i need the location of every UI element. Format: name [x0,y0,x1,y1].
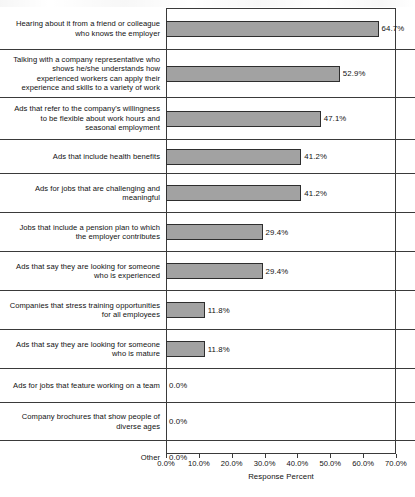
category-label-line: Companies that stress training opportuni… [0,301,160,310]
bar [166,111,321,127]
bar [166,341,205,357]
x-axis-tick-label: 50.0% [319,459,341,468]
bar-value-label: 11.8% [205,306,230,315]
scan-noise-artifact [0,0,415,7]
category-label-line: who knows the employer [0,29,160,38]
category-label: Companies that stress training opportuni… [0,301,164,320]
bar [166,224,263,240]
chart-row: Ads that say they are looking for someon… [0,252,415,291]
category-label: Company brochures that show people ofdiv… [0,412,164,431]
bar-value-label: 0.0% [166,381,187,390]
bar-value-label: 29.4% [263,267,289,276]
category-label-line: Hearing about it from a friend or collea… [0,19,160,28]
bar-value-label: 47.1% [321,114,347,123]
bar-value-label: 0.0% [166,417,187,426]
category-label: Ads that say they are looking for someon… [0,340,164,359]
x-axis-tick-label: 20.0% [221,459,243,468]
category-label: Ads for jobs that are challenging andmea… [0,184,164,203]
x-axis-tick [166,454,167,458]
bar-value-label: 41.2% [301,152,327,161]
x-axis-tick [363,454,364,458]
bar-cell: 64.7% [166,8,396,49]
category-label-line: who is mature [0,349,160,358]
x-axis-title: Response Percent [166,472,396,481]
bar-cell: 0.0% [166,403,396,440]
category-label-line: Ads that include health benefits [0,152,160,161]
bar [166,149,301,165]
bar [166,21,379,37]
category-label: Ads that include health benefits [0,152,164,161]
category-label-line: Ads that refer to the company's willingn… [0,104,160,113]
category-label: Jobs that include a pension plan to whic… [0,223,164,242]
bar-value-label: 29.4% [263,228,289,237]
bar-cell: 11.8% [166,291,396,329]
bar-cell: 41.2% [166,140,396,173]
chart-row: Ads that say they are looking for someon… [0,330,415,369]
category-label: Ads for jobs that feature working on a t… [0,381,164,390]
category-label-line: the employer contributes [0,232,160,241]
x-axis-tick [265,454,266,458]
category-label: Ads that refer to the company's willingn… [0,104,164,132]
x-axis-tick [297,454,298,458]
x-axis-tick-labels: 0.0%10.0%20.0%30.0%40.0%50.0%60.0%70.0% [0,459,415,471]
bar-value-label: 52.9% [340,69,366,78]
category-label-line: Company brochures that show people of [0,412,160,421]
x-axis-tick [232,454,233,458]
category-label: Hearing about it from a friend or collea… [0,19,164,38]
x-axis-tick-label: 70.0% [385,459,407,468]
category-label-line: Talking with a company representative wh… [0,55,160,64]
category-label-line: shows he/she understands how [0,64,160,73]
chart-row: Talking with a company representative wh… [0,50,415,98]
category-label-line: Ads for jobs that feature working on a t… [0,381,160,390]
chart-row: Ads for jobs that feature working on a t… [0,369,415,403]
category-label: Talking with a company representative wh… [0,55,164,93]
chart-row: Hearing about it from a friend or collea… [0,8,415,50]
x-axis-tick [396,454,397,458]
category-label-line: Ads for jobs that are challenging and [0,184,160,193]
bar-cell: 41.2% [166,174,396,212]
category-label-line: experience and skills to a variety of wo… [0,83,160,92]
category-label-line: experienced workers can apply their [0,74,160,83]
x-axis-tick [330,454,331,458]
chart-rows: Hearing about it from a friend or collea… [0,8,415,454]
category-label-line: Ads that say they are looking for someon… [0,262,160,271]
bar-cell: 0.0% [166,369,396,402]
chart-row: Company brochures that show people ofdiv… [0,403,415,441]
bar-cell: 11.8% [166,330,396,368]
category-label-line: diverse ages [0,422,160,431]
bar-cell: 52.9% [166,50,396,97]
chart-row: Ads that refer to the company's willingn… [0,98,415,140]
bar-cell: 29.4% [166,252,396,290]
bar-cell: 29.4% [166,213,396,251]
bar [166,263,263,279]
chart-row: Jobs that include a pension plan to whic… [0,213,415,252]
bar-cell: 47.1% [166,98,396,139]
category-label-line: to be flexible about work hours and [0,114,160,123]
category-label-line: who is experienced [0,271,160,280]
x-axis-tick-label: 60.0% [352,459,374,468]
category-label-line: Ads that say they are looking for someon… [0,340,160,349]
chart-row: Companies that stress training opportuni… [0,291,415,330]
x-axis-tick-label: 40.0% [287,459,309,468]
category-label-line: seasonal employment [0,123,160,132]
bar [166,66,340,82]
category-label-line: for all employees [0,310,160,319]
x-axis-tick-label: 30.0% [254,459,276,468]
bar-value-label: 11.8% [205,345,230,354]
bar [166,302,205,318]
bar-chart: Hearing about it from a friend or collea… [0,0,415,497]
chart-row: Ads that include health benefits41.2% [0,140,415,174]
x-axis-tick-label: 0.0% [157,459,175,468]
category-label: Ads that say they are looking for someon… [0,262,164,281]
x-axis-tick-label: 10.0% [188,459,210,468]
chart-row: Ads for jobs that are challenging andmea… [0,174,415,213]
bar-value-label: 41.2% [301,189,327,198]
x-axis-tick [199,454,200,458]
category-label-line: Jobs that include a pension plan to whic… [0,223,160,232]
bar-value-label: 64.7% [379,24,405,33]
category-label-line: meaningful [0,193,160,202]
bar [166,185,301,201]
